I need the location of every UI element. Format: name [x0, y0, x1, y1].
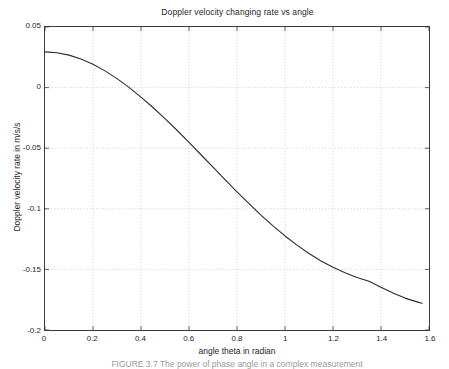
x-tick-label: 0.2 — [72, 334, 112, 343]
x-tick-label: 1 — [265, 334, 305, 343]
x-tick-label: 0 — [24, 334, 64, 343]
x-tick-label: 0.6 — [169, 334, 209, 343]
y-axis-label: Doppler velocity rate in m/s/s — [12, 97, 22, 257]
x-tick-label: 0.8 — [217, 334, 257, 343]
x-tick-label: 1.2 — [314, 334, 354, 343]
x-tick-label: 1.6 — [410, 334, 449, 343]
figure-caption: FIGURE 3.7 The power of phase angle in a… — [44, 359, 430, 369]
x-tick-label: 1.4 — [362, 334, 402, 343]
x-tick-label: 0.4 — [121, 334, 161, 343]
x-axis-label: angle theta in radian — [44, 346, 430, 356]
